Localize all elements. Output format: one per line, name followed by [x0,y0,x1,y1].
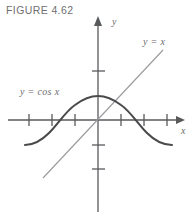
cosine-label-arg: x [54,86,60,97]
identity-line-curve [43,50,163,178]
x-axis-label: x [180,125,186,136]
cosine-label-fn: cos [37,86,51,97]
y-axis-label: y [111,16,117,27]
plot-canvas: y x y = x y = cosx [0,0,196,224]
cosine-curve-label: y = cosx [19,86,60,97]
figure-container: FIGURE 4.62 y x [0,0,196,224]
y-axis-arrow-icon [94,16,102,26]
identity-line-label: y = x [142,36,165,47]
cosine-label-lhs: y = [19,86,37,97]
x-axis-arrow-icon [176,116,185,124]
